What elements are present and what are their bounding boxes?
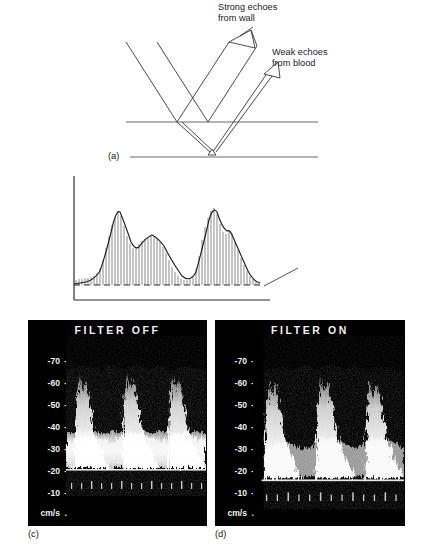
lumen-ray-1 (177, 122, 211, 153)
axis-tick-label: -20 (235, 466, 247, 476)
panel-a-label: (a) (108, 150, 119, 161)
axis-tick-30-c: -30- (31, 444, 67, 454)
strong-echo-arrowhead (229, 30, 255, 48)
figure-container: Strong echoes from wall Weak echoes from… (0, 0, 422, 555)
axis-tick-label: -50 (48, 400, 60, 410)
axis-tick-40-d: -40- (218, 422, 254, 432)
strong-echo-ray-b (208, 46, 257, 122)
axis-tick-60-d: -60- (218, 378, 254, 388)
spectrogram-canvas-d (253, 336, 404, 509)
axis-tick-10-c: -10- (31, 488, 67, 498)
axis-tick-60-c: -60- (31, 378, 67, 388)
axis-tick-20-c: -20- (31, 466, 67, 476)
axis-unit-text: cm/s (40, 508, 60, 518)
axis-tick-70-d: -70- (218, 356, 254, 366)
incident-ray-2 (157, 42, 208, 122)
axis-tick-label: -50 (235, 400, 247, 410)
panel-c-spectrogram-filter-off: FILTER OFF -70- -60- -50- -40- -30- -20-… (28, 320, 207, 526)
weak-echo-ray-b (216, 76, 272, 152)
axis-tick-label: -20 (48, 466, 60, 476)
panel-d-label: (d) (215, 528, 226, 539)
spectrogram-title-filter-off: FILTER OFF (28, 324, 207, 336)
panel-c-label: (c) (28, 528, 39, 539)
incident-ray-1 (126, 42, 177, 122)
axis-tick-label: -10 (235, 488, 247, 498)
spectrogram-canvas-c (66, 336, 206, 496)
axis-tick-label: -40 (235, 422, 247, 432)
axis-tick-label: -70 (48, 356, 60, 366)
left-margin-mask-d (253, 336, 264, 509)
spectrogram-title-filter-on: FILTER ON (215, 324, 405, 336)
axis-tick-label: -30 (235, 444, 247, 454)
zero-baseline-d (262, 479, 404, 481)
axis-tick-label: -70 (235, 356, 247, 366)
axis-tick-10-d: -10- (218, 488, 254, 498)
axis-unit-label-c: cm/s. (31, 508, 67, 518)
axis-tick-70-c: -70- (31, 356, 67, 366)
scatter-point-marker (208, 149, 216, 155)
axis-tick-label: -10 (48, 488, 60, 498)
axis-unit-label-d: cm/s. (218, 508, 254, 518)
strong-echoes-annotation: Strong echoes from wall (218, 2, 277, 24)
weak-echoes-annotation: Weak echoes from blood (272, 47, 328, 69)
filter-annotation-leader (264, 268, 298, 286)
axis-tick-50-c: -50- (31, 400, 67, 410)
waveform-svg (0, 172, 422, 314)
axis-unit-text: cm/s (227, 508, 247, 518)
axis-tick-50-d: -50- (218, 400, 254, 410)
axis-tick-20-d: -20- (218, 466, 254, 476)
ray-diagram-svg (0, 0, 422, 172)
waveform-hatching (76, 208, 259, 285)
axis-tick-30-d: -30- (218, 444, 254, 454)
axis-tick-40-c: -40- (31, 422, 67, 432)
axis-tick-label: -60 (235, 378, 247, 388)
axis-tick-label: -40 (48, 422, 60, 432)
panel-d-spectrogram-filter-on: FILTER ON -70- -60- -50- -40- -30- -20- … (215, 320, 405, 526)
strong-echo-ray-a (177, 42, 229, 122)
weak-echo-ray-a (212, 72, 268, 153)
panel-b-waveform-diagram: High pass wall thump filter (b) (0, 172, 422, 314)
axis-tick-label: -60 (48, 378, 60, 388)
axis-tick-label: -30 (48, 444, 60, 454)
panel-a-ray-diagram: Strong echoes from wall Weak echoes from… (0, 0, 422, 172)
lumen-ray-2 (182, 122, 214, 152)
zero-baseline-c (66, 469, 206, 471)
